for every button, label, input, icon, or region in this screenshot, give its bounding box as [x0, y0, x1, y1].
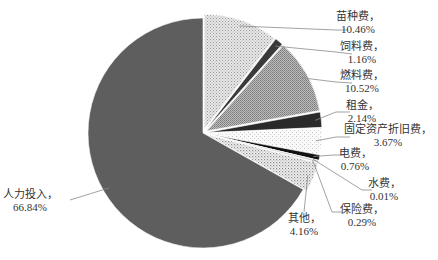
slice-label-percent: 66.84% — [13, 201, 47, 213]
slice-label-name: 租金， — [346, 98, 379, 111]
slice-label-percent: 4.16% — [290, 225, 318, 237]
slice-label-percent: 10.46% — [341, 23, 375, 35]
slice-label-name: 燃料费， — [340, 68, 384, 81]
slice-label-6: 水费，0.01% — [368, 177, 401, 202]
slice-label-percent: 0.29% — [348, 216, 376, 228]
slice-label-5: 电费，0.76% — [339, 147, 372, 172]
slice-label-4: 固定资产折旧费，3.67% — [344, 122, 432, 148]
slice-label-7: 保险费，0.29% — [340, 202, 384, 228]
slice-label-name: 人力投入， — [3, 187, 58, 200]
slice-label-9: 人力投入，66.84% — [3, 187, 58, 213]
slice-label-name: 固定资产折旧费， — [344, 122, 432, 135]
slice-label-name: 其他， — [288, 212, 321, 224]
slice-label-0: 苗种费，10.46% — [336, 9, 380, 35]
slice-label-percent: 0.76% — [341, 160, 369, 172]
slice-label-percent: 1.16% — [348, 53, 376, 65]
slice-label-2: 燃料费，10.52% — [340, 68, 384, 94]
slice-label-name: 水费， — [368, 177, 401, 189]
slice-label-percent: 3.67% — [374, 136, 402, 148]
slice-label-1: 饲料费，1.16% — [340, 39, 384, 65]
slice-label-name: 保险费， — [340, 202, 384, 215]
slice-label-percent: 0.01% — [370, 190, 398, 202]
slice-label-3: 租金，2.14% — [346, 98, 379, 124]
slice-label-name: 电费， — [339, 147, 372, 159]
slice-label-percent: 10.52% — [345, 82, 379, 94]
slice-label-name: 苗种费， — [336, 9, 380, 22]
slice-label-name: 饲料费， — [340, 39, 384, 52]
pie-chart: 苗种费，10.46%饲料费，1.16%燃料费，10.52%租金，2.14%固定资… — [0, 0, 438, 260]
leader-line-9 — [70, 188, 109, 200]
slice-label-8: 其他，4.16% — [288, 212, 321, 237]
